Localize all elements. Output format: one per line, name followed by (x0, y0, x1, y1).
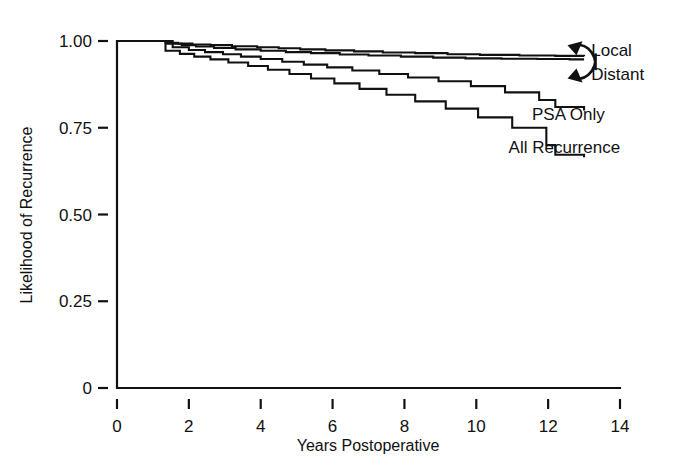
arrow-head (567, 68, 582, 82)
axes: 02468101214 00.250.500.751.00 (59, 32, 630, 436)
x-tick-label: 6 (328, 417, 337, 436)
series-label-local: Local (591, 41, 632, 60)
y-tick-label: 0.75 (59, 119, 92, 138)
x-tick-label: 14 (611, 417, 630, 436)
x-tick-label: 8 (400, 417, 409, 436)
x-tick-label: 4 (256, 417, 265, 436)
y-tick-label: 0 (83, 379, 92, 398)
y-axis-ticks (98, 41, 108, 388)
y-tick-label: 1.00 (59, 32, 92, 51)
series-label-distant: Distant (591, 65, 644, 84)
x-axis-tick-labels: 02468101214 (112, 417, 629, 436)
y-tick-label: 0.50 (59, 206, 92, 225)
y-axis-tick-labels: 00.250.500.751.00 (59, 32, 92, 398)
arrow-head (567, 41, 582, 55)
x-tick-label: 2 (184, 417, 193, 436)
y-axis-title: Likelihood of Recurrence (18, 126, 35, 303)
x-axis-title: Years Postoperative (297, 437, 440, 454)
x-tick-label: 12 (539, 417, 558, 436)
y-tick-label: 0.25 (59, 292, 92, 311)
series-label-all-recurrence: All Recurrence (509, 138, 621, 157)
figure-container: 02468101214 00.250.500.751.00 LocalDista… (0, 0, 675, 470)
x-tick-label: 0 (112, 417, 121, 436)
x-tick-label: 10 (467, 417, 486, 436)
series-label-psa-only: PSA Only (532, 105, 605, 124)
x-axis-ticks (117, 399, 620, 409)
axis-lines (117, 41, 620, 388)
recurrence-survival-chart: 02468101214 00.250.500.751.00 LocalDista… (0, 0, 675, 470)
